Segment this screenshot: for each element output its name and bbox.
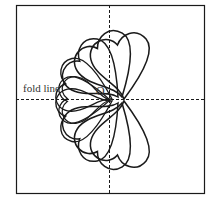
fold-line-label: fold line [23, 82, 60, 94]
origin-label: O [96, 84, 105, 99]
diagram-canvas [0, 0, 214, 205]
